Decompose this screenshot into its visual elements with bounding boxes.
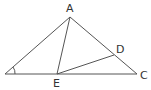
triangle-diagram: A C D E | [0, 0, 151, 90]
segment-AC [70, 17, 137, 74]
label-D: D [116, 43, 124, 56]
label-B: | [0, 69, 1, 82]
label-C: C [140, 69, 148, 82]
segment-AE [57, 17, 70, 74]
label-A: A [66, 2, 74, 15]
angle-mark-B [13, 67, 15, 74]
label-E: E [53, 77, 60, 90]
segment-AB [5, 17, 70, 74]
segment-ED [57, 55, 114, 74]
